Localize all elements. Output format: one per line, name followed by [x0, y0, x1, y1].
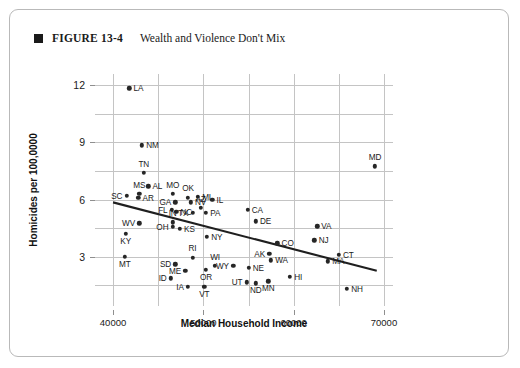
data-point-label: DE	[260, 217, 271, 226]
y-tick-label: 12	[73, 79, 85, 91]
square-bullet-icon	[34, 34, 43, 43]
data-point-label: LA	[134, 84, 144, 93]
data-point-label: KS	[184, 224, 195, 233]
figure-number: FIGURE 13-4	[52, 32, 123, 44]
data-point-label: ND	[250, 286, 262, 295]
data-point-label: TX	[178, 208, 188, 217]
y-tick-label: 3	[79, 251, 85, 263]
data-point-label: TN	[138, 160, 149, 169]
trendline	[95, 74, 393, 306]
data-point-label: AZ	[196, 195, 206, 204]
data-point-label: OK	[182, 184, 194, 193]
figure-title: Wealth and Violence Don't Mix	[140, 32, 285, 44]
data-point-label: MS	[133, 181, 145, 190]
data-point-label: UT	[232, 278, 243, 287]
x-tick	[203, 310, 204, 315]
data-point-label: WI	[210, 253, 220, 262]
data-point-label: HI	[294, 272, 302, 281]
data-point-label: IL	[217, 195, 224, 204]
x-axis-title: Median Household Income	[95, 318, 393, 329]
scatter-plot-area: 4000050000600007000036912 LANMMDTNALMSSC…	[95, 74, 393, 306]
data-point-label: WV	[122, 219, 135, 228]
y-tick-label: 9	[79, 136, 85, 148]
data-point-label: IN	[169, 209, 177, 218]
data-point-label: CT	[343, 250, 354, 259]
data-point-label: KY	[120, 237, 131, 246]
data-point-label: AL	[152, 182, 162, 191]
figure-caption: FIGURE 13-4 Wealth and Violence Don't Mi…	[34, 32, 285, 44]
data-point-label: NM	[146, 141, 159, 150]
data-point-label: VA	[321, 222, 331, 231]
data-point-label: OR	[200, 273, 212, 282]
x-tick-label: 70000	[371, 317, 397, 328]
data-point-label: WY	[216, 262, 229, 271]
x-tick	[384, 310, 385, 315]
data-point-label: FL	[158, 205, 167, 214]
data-point-label: MO	[166, 181, 179, 190]
x-tick	[113, 310, 114, 315]
x-tick-label: 50000	[190, 317, 216, 328]
data-point-label: WA	[275, 256, 288, 265]
data-point-label: CA	[252, 205, 263, 214]
x-tick-label: 40000	[100, 317, 126, 328]
data-point-label: NY	[211, 232, 222, 241]
data-point-label: MD	[369, 153, 382, 162]
data-point-label: VT	[199, 290, 209, 299]
data-point-label: ME	[169, 266, 181, 275]
data-point-label: CO	[282, 239, 294, 248]
data-point-label: NE	[253, 263, 264, 272]
data-point-label: ID	[159, 274, 167, 283]
data-point-label: NJ	[319, 236, 329, 245]
data-point-label: MT	[119, 260, 131, 269]
data-point-label: AK	[254, 249, 265, 258]
data-point-label: IA	[176, 282, 184, 291]
data-point-label: RI	[189, 244, 197, 253]
x-tick-label: 60000	[280, 317, 306, 328]
x-tick	[294, 310, 295, 315]
data-point-label: MA	[332, 257, 344, 266]
y-tick-label: 6	[79, 194, 85, 206]
y-axis-title: Homicides per 100,0000	[28, 133, 39, 246]
figure-card: FIGURE 13-4 Wealth and Violence Don't Mi…	[9, 9, 509, 357]
data-point-label: NH	[351, 284, 363, 293]
data-point-label: SC	[111, 191, 122, 200]
data-point-label: OH	[156, 223, 168, 232]
data-point-label: AR	[143, 193, 154, 202]
data-point-label: PA	[210, 208, 220, 217]
data-point-label: MN	[262, 284, 275, 293]
